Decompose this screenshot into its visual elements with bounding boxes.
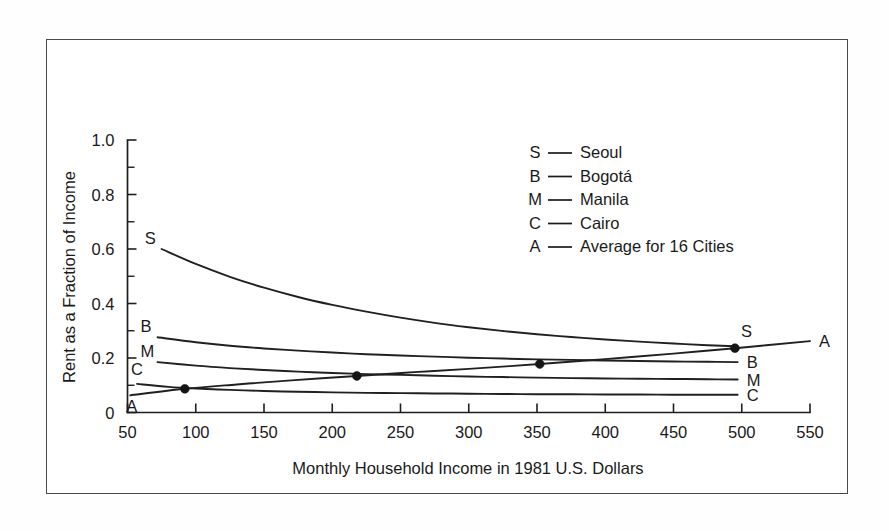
curve-start-label-B: B: [141, 317, 152, 335]
x-axis-tick-labels: 50100150200250300350400450500550: [118, 423, 823, 441]
y-axis-tick-labels: 00.20.40.60.81.0: [92, 131, 115, 422]
legend-key-S: S: [529, 143, 540, 161]
x-tick-label: 100: [182, 423, 210, 441]
legend-label-S: Seoul: [580, 143, 622, 161]
legend-label-C: Cairo: [580, 214, 619, 232]
line-chart-plot: 00.20.40.60.81.0 50100150200250300350400…: [0, 0, 889, 531]
y-tick-label: 1.0: [92, 131, 115, 149]
y-tick-label: 0.4: [92, 295, 115, 313]
legend-key-M: M: [528, 190, 542, 208]
y-axis-title: Rent as a Fraction of Income: [60, 171, 78, 383]
curve-end-label-A: A: [819, 332, 830, 350]
data-point-marker: [180, 384, 189, 393]
data-point-marker: [535, 360, 544, 369]
series-line-bogot-: [158, 337, 738, 362]
y-tick-label: 0.2: [92, 349, 115, 367]
legend-key-C: C: [529, 214, 541, 232]
x-axis-title: Monthly Household Income in 1981 U.S. Do…: [292, 459, 643, 477]
y-tick-label: 0.8: [92, 186, 115, 204]
x-tick-label: 500: [728, 423, 756, 441]
x-tick-label: 250: [387, 423, 415, 441]
y-tick-label: 0: [105, 404, 114, 422]
curve-start-label-C: C: [131, 360, 143, 378]
x-tick-label: 200: [318, 423, 346, 441]
legend-label-A: Average for 16 Cities: [580, 237, 734, 255]
curve-start-label-M: M: [141, 342, 155, 360]
curve-end-label-C: C: [747, 386, 759, 404]
figure-root: 00.20.40.60.81.0 50100150200250300350400…: [0, 0, 889, 531]
legend-label-M: Manila: [580, 190, 629, 208]
chart-legend: SSeoulBBogotáMManilaCCairoAAverage for 1…: [528, 143, 734, 255]
legend-key-B: B: [529, 167, 540, 185]
x-tick-label: 150: [250, 423, 278, 441]
x-tick-label: 550: [796, 423, 824, 441]
x-tick-label: 400: [591, 423, 619, 441]
curve-end-labels: SSBBMMCCAA: [126, 229, 830, 415]
legend-key-A: A: [529, 237, 540, 255]
curve-end-label-S: S: [741, 322, 752, 340]
x-axis-ticks: [128, 404, 811, 413]
series-line-seoul: [162, 249, 735, 346]
y-tick-label: 0.6: [92, 240, 115, 258]
x-tick-label: 350: [523, 423, 551, 441]
curve-start-label-A: A: [126, 397, 137, 415]
x-tick-label: 50: [118, 423, 136, 441]
x-tick-label: 450: [660, 423, 688, 441]
x-tick-label: 300: [455, 423, 483, 441]
curve-start-label-S: S: [145, 229, 156, 247]
data-point-marker: [731, 344, 740, 353]
data-series-group: [130, 249, 810, 395]
curve-end-label-B: B: [747, 353, 758, 371]
legend-label-B: Bogotá: [580, 167, 633, 185]
data-point-marker: [352, 372, 361, 381]
